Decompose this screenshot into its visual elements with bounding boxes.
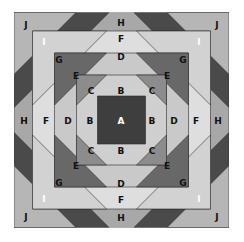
label-i: I [197,194,200,204]
label-a: A [118,116,125,126]
label-h: H [117,213,125,223]
label-h: H [214,116,222,126]
label-d: D [170,116,177,126]
label-j: J [214,20,218,30]
label-e: E [164,161,170,171]
label-i: I [42,194,45,204]
label-c: C [149,86,156,96]
label-e: E [73,161,79,171]
label-g: G [55,55,62,65]
label-c: C [88,146,95,156]
label-j: J [23,212,27,222]
label-g: G [55,178,62,188]
label-h: H [20,116,28,126]
label-b: B [87,116,94,126]
label-d: D [64,116,71,126]
label-b: B [118,146,125,156]
label-f: F [118,195,124,205]
label-d: D [117,179,124,189]
quilt-block-diagram: JHJIFIGDGEBECCHFDBABDFHCBCEDEGFGIHIJJ [0,0,244,242]
label-j: J [214,212,218,222]
label-c: C [149,146,156,156]
label-c: C [88,86,95,96]
label-f: F [43,116,49,126]
label-h: H [117,18,125,28]
label-e: E [73,71,79,81]
label-f: F [193,116,199,126]
label-d: D [117,52,124,62]
label-g: G [179,55,186,65]
label-f: F [118,34,124,44]
label-b: B [149,116,156,126]
label-j: J [23,20,27,30]
label-i: I [197,37,200,47]
label-i: I [42,37,45,47]
label-g: G [179,178,186,188]
label-e: E [164,71,170,81]
label-b: B [118,86,125,96]
